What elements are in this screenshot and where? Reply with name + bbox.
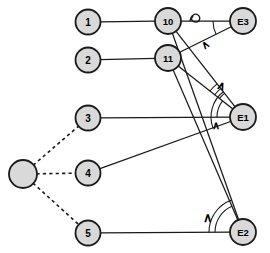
node-n4[interactable]: 4 <box>76 161 101 186</box>
edge-n2-n11 <box>100 58 156 59</box>
node-n10[interactable]: 10 <box>155 8 181 34</box>
mark-e1-upper: ∧ <box>215 78 228 94</box>
edge-n10-e2 <box>172 33 239 220</box>
node-label-n11: 11 <box>163 53 174 64</box>
mark-e2: ∧ <box>203 210 213 225</box>
diagram-canvas: 123451011E3E1E2 ∧∧∧∧ <box>0 0 270 253</box>
mark-e3: ∧ <box>198 37 211 51</box>
node-label-n3: 3 <box>85 113 91 124</box>
node-label-n10: 10 <box>163 16 174 27</box>
edge-n5-e2 <box>100 232 231 233</box>
edge-layer <box>33 21 239 233</box>
node-label-e2: E2 <box>237 227 249 238</box>
node-label-n4: 4 <box>85 168 91 179</box>
edge-n1-n10 <box>100 21 156 22</box>
edge-n11-e2 <box>173 69 238 220</box>
graph-svg: 123451011E3E1E2 ∧∧∧∧ <box>0 0 270 253</box>
node-hub[interactable] <box>9 160 37 188</box>
edge-hub-n3 <box>33 126 79 165</box>
angle-arc-e1-d <box>217 101 223 117</box>
node-e1[interactable]: E1 <box>230 104 256 130</box>
node-label-e1: E1 <box>237 112 249 123</box>
node-label-n2: 2 <box>85 55 91 66</box>
node-circle-hub <box>9 160 37 188</box>
node-n11[interactable]: 11 <box>155 45 181 71</box>
node-n2[interactable]: 2 <box>76 48 101 73</box>
node-label-n5: 5 <box>85 228 91 239</box>
angle-arc-e3-a <box>213 21 216 34</box>
node-e3[interactable]: E3 <box>230 8 256 34</box>
node-n1[interactable]: 1 <box>76 10 101 35</box>
mark-e1-lower: ∧ <box>212 119 220 131</box>
node-e2[interactable]: E2 <box>230 219 256 245</box>
node-label-e3: E3 <box>237 16 249 27</box>
node-n3[interactable]: 3 <box>76 106 101 131</box>
edge-hub-n5 <box>33 183 79 225</box>
node-label-n1: 1 <box>85 17 91 28</box>
node-n5[interactable]: 5 <box>76 221 101 246</box>
edge-hub-n4 <box>36 173 76 174</box>
